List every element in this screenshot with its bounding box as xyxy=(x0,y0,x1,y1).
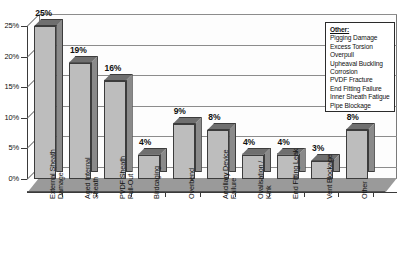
x-axis-category-label: PVDF Sheath Pull-Out xyxy=(119,141,135,199)
x-axis-category-label: Other xyxy=(361,141,369,199)
bar-value-label: 19% xyxy=(70,45,87,55)
y-axis-label: 0% xyxy=(0,175,19,183)
y-axis-label: 25% xyxy=(0,22,19,30)
x-axis-category-label: External Sheath Damage xyxy=(49,141,65,199)
bar-value-label: 25% xyxy=(35,8,52,18)
x-axis-tick xyxy=(235,192,236,197)
x-axis-tick xyxy=(62,192,63,197)
legend-item: Inner Sheath Fatigue xyxy=(330,93,391,101)
legend-item: Pipe Blockage xyxy=(330,102,391,110)
legend-item: Pigging Damage xyxy=(330,34,391,42)
legend-item: Overpull xyxy=(330,51,391,59)
bar-value-label: 8% xyxy=(208,112,220,122)
gridline xyxy=(39,14,397,15)
x-axis-tick xyxy=(304,192,305,197)
x-axis-category-label: Aged Internal Sheath xyxy=(84,141,100,199)
x-axis-tick xyxy=(165,192,166,197)
legend-item: Excess Torsion xyxy=(330,43,391,51)
x-axis-category-label: Ancillary Device Failure xyxy=(222,141,238,199)
y-axis-label: 20% xyxy=(0,53,19,61)
bar-chart: 0%5%10%15%20%25% 25%19%16%4%9%8%4%4%3%8%… xyxy=(0,0,406,259)
legend-item: End Fitting Failure xyxy=(330,85,391,93)
x-axis-category-label: End Fitting Leak xyxy=(292,141,300,199)
legend-items: Pigging DamageExcess TorsionOverpullUphe… xyxy=(330,34,391,110)
y-axis-label: 15% xyxy=(0,83,19,91)
x-axis-tick xyxy=(131,192,132,197)
y-axis-label: 10% xyxy=(0,114,19,122)
bar-value-label: 4% xyxy=(278,137,290,147)
x-axis-tick xyxy=(96,192,97,197)
legend-item: PVDF Fracture xyxy=(330,76,391,84)
x-axis-category-label: Ovalisation / Kink xyxy=(257,141,273,199)
bar-value-label: 4% xyxy=(139,137,151,147)
bar-value-label: 16% xyxy=(105,63,122,73)
x-axis-tick xyxy=(338,192,339,197)
y-axis-line xyxy=(27,26,28,179)
x-axis-tick xyxy=(373,192,374,197)
bar-value-label: 8% xyxy=(347,112,359,122)
bar-value-label: 9% xyxy=(174,106,186,116)
bar-value-label: 3% xyxy=(312,143,324,153)
x-axis-tick xyxy=(269,192,270,197)
legend-box: Other: Pigging DamageExcess TorsionOverp… xyxy=(325,22,395,112)
legend-item: Upheaval Buckling xyxy=(330,60,391,68)
x-axis-category-label: Vent Blockage xyxy=(326,141,334,199)
bar-value-label: 4% xyxy=(243,137,255,147)
x-axis-category-label: Birdcaging xyxy=(153,141,161,199)
x-axis-tick xyxy=(200,192,201,197)
legend-title: Other: xyxy=(330,26,391,34)
y-axis-label: 5% xyxy=(0,144,19,152)
legend-item: Corrosion xyxy=(330,68,391,76)
x-axis-category-label: Overbend xyxy=(188,141,196,199)
